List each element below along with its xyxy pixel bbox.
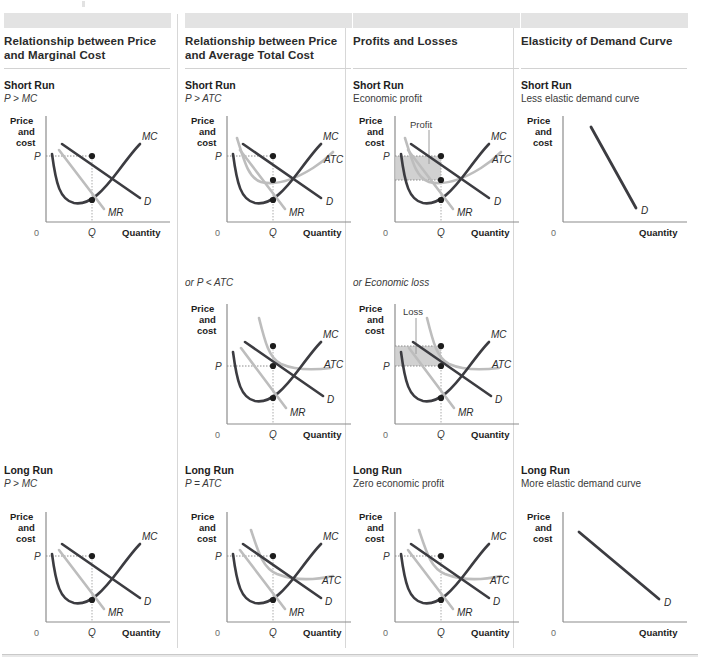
header-bar xyxy=(185,13,352,28)
demand-label: D xyxy=(641,205,648,216)
mc-curve xyxy=(233,342,321,401)
demand-curve-shallow xyxy=(579,532,659,599)
mr-mc-point-marker xyxy=(270,395,276,401)
demand-curve-steep xyxy=(591,127,636,208)
chart-c1-long: Price and cost P Q 0 Quantity MC ATC D M… xyxy=(185,504,353,632)
origin-label: 0 xyxy=(383,430,388,440)
mr-label: MR xyxy=(108,607,124,618)
demand-label: D xyxy=(325,596,332,607)
price-point-marker xyxy=(89,553,95,559)
x-axis-label: Quantity xyxy=(471,429,510,440)
price-tick-label: P xyxy=(34,151,41,162)
y-axis-label-1: Price xyxy=(359,115,382,126)
y-axis-label-2: and xyxy=(535,522,552,533)
column-elasticity-of-demand: Elasticity of Demand Curve Short Run Les… xyxy=(521,0,689,648)
price-tick-label: P xyxy=(215,361,222,372)
chart-c3-long: Price and cost D 0 Quantity xyxy=(521,504,689,632)
price-tick-label: P xyxy=(34,551,41,562)
mc-label: MC xyxy=(491,531,507,542)
origin-label: 0 xyxy=(551,228,556,238)
chart-c3-short: Price and cost D 0 Quantity xyxy=(521,112,689,240)
section-or-economic-loss: or Economic loss xyxy=(353,277,521,289)
section-long-run: Long Run Zero economic profit xyxy=(353,464,521,490)
atc-curve xyxy=(251,530,333,579)
column-profits-and-losses: Profits and Losses Short Run Economic pr… xyxy=(353,0,521,648)
section-subheading: P > MC xyxy=(4,478,172,490)
column-title: Elasticity of Demand Curve xyxy=(521,34,687,48)
section-heading: Long Run xyxy=(353,464,521,476)
y-axis-label-1: Price xyxy=(359,303,382,314)
section-or-p-lt-atc: or P < ATC xyxy=(185,277,353,289)
chart-c1-short: Price and cost P Q 0 Quantity MC ATC D M… xyxy=(185,112,353,240)
x-axis-label: Quantity xyxy=(471,627,510,638)
price-point-marker xyxy=(270,153,276,159)
mr-mc-point-marker xyxy=(438,197,444,203)
price-tick-label: P xyxy=(383,151,390,162)
quantity-tick-label: Q xyxy=(437,627,445,638)
mc-label: MC xyxy=(323,329,339,340)
mr-label: MR xyxy=(458,407,474,418)
figure-sheet: Relationship between Price and Marginal … xyxy=(0,0,701,662)
price-tick-label: P xyxy=(215,551,222,562)
quantity-tick-label: Q xyxy=(88,627,96,638)
y-axis-label-3: cost xyxy=(16,137,36,148)
x-axis-label: Quantity xyxy=(471,227,510,238)
title-rule xyxy=(521,68,687,69)
mr-label: MR xyxy=(457,607,473,618)
header-bar xyxy=(521,13,688,28)
atc-point-marker xyxy=(270,177,276,183)
y-axis-label-2: and xyxy=(18,522,35,533)
quantity-tick-label: Q xyxy=(437,429,445,440)
mr-mc-point-marker xyxy=(89,197,95,203)
y-axis-label-3: cost xyxy=(16,533,36,544)
mr-label: MR xyxy=(108,207,124,218)
price-tick-label: P xyxy=(383,551,390,562)
y-axis-label-2: and xyxy=(199,522,216,533)
column-title: Relationship between Price and Marginal … xyxy=(4,34,170,62)
atc-curve xyxy=(419,530,501,579)
section-heading: Long Run xyxy=(4,464,172,476)
origin-label: 0 xyxy=(551,628,556,638)
y-axis-label-1: Price xyxy=(191,303,214,314)
title-rule xyxy=(185,68,351,69)
section-heading: Long Run xyxy=(521,464,689,476)
y-axis-label-2: and xyxy=(367,314,384,325)
y-axis-label-3: cost xyxy=(533,533,553,544)
y-axis-label-1: Price xyxy=(10,511,33,522)
mr-mc-point-marker xyxy=(89,597,95,603)
atc-point-marker xyxy=(438,177,444,183)
y-axis-label-3: cost xyxy=(365,137,385,148)
section-heading: Short Run xyxy=(4,79,172,91)
mr-label: MR xyxy=(457,207,473,218)
title-rule xyxy=(4,68,170,69)
x-axis-label: Quantity xyxy=(639,627,678,638)
mc-label: MC xyxy=(491,329,507,340)
mr-label: MR xyxy=(289,607,305,618)
section-subheading: or P < ATC xyxy=(185,277,353,289)
profit-annotation: Profit xyxy=(410,119,433,130)
mc-label: MC xyxy=(142,531,158,542)
quantity-tick-label: Q xyxy=(269,429,277,440)
section-short-run: Short Run Less elastic demand curve xyxy=(521,79,689,105)
mr-mc-point-marker xyxy=(438,395,444,401)
section-heading: Short Run xyxy=(185,79,353,91)
mr-mc-point-marker xyxy=(438,597,444,603)
chart-c2-mid: Price and cost Loss P Q 0 Quantity MC AT… xyxy=(353,296,521,424)
section-long-run: Long Run P > MC xyxy=(4,464,172,490)
quantity-tick-label: Q xyxy=(269,627,277,638)
demand-label: D xyxy=(144,596,151,607)
origin-label: 0 xyxy=(215,228,220,238)
section-short-run: Short Run P > ATC xyxy=(185,79,353,105)
section-subheading: Economic profit xyxy=(353,93,521,105)
section-long-run: Long Run More elastic demand curve xyxy=(521,464,689,490)
chart-c0-long: Price and cost P Q 0 Quantity MC D MR xyxy=(4,504,172,632)
demand-label: D xyxy=(664,597,671,608)
y-axis-label-2: and xyxy=(199,314,216,325)
tangency-point-marker xyxy=(270,553,276,559)
mr-mc-point-marker xyxy=(270,197,276,203)
mc-curve xyxy=(52,144,140,203)
x-axis-label: Quantity xyxy=(303,429,342,440)
mc-label: MC xyxy=(491,131,507,142)
origin-label: 0 xyxy=(34,228,39,238)
section-subheading: P > ATC xyxy=(185,93,353,105)
